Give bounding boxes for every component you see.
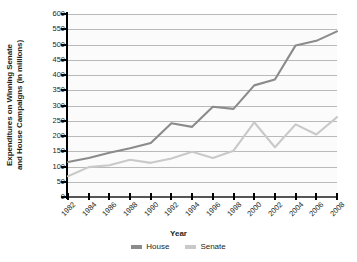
series-line-house bbox=[68, 31, 337, 162]
legend-swatch-house bbox=[131, 245, 142, 249]
legend-item-senate[interactable]: Senate bbox=[185, 242, 225, 251]
series-line-senate bbox=[68, 117, 337, 176]
line-chart: Expenditures on Winning Senate and House… bbox=[0, 0, 357, 262]
x-axis-title: Year bbox=[0, 229, 357, 238]
legend-label-senate: Senate bbox=[200, 242, 225, 251]
legend-swatch-senate bbox=[185, 245, 196, 249]
series-lines bbox=[0, 0, 357, 262]
legend-item-house[interactable]: House bbox=[131, 242, 169, 251]
legend-label-house: House bbox=[146, 242, 169, 251]
chart-legend: House Senate bbox=[0, 242, 357, 251]
